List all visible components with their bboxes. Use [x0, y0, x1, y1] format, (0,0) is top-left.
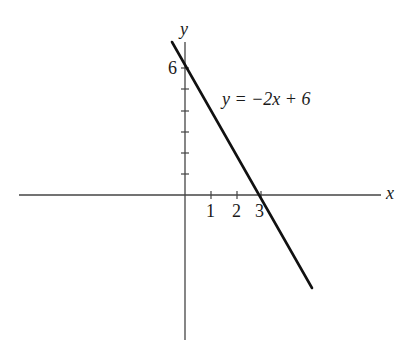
y-axis-label: y [180, 20, 188, 38]
y-intercept-label: 6 [168, 59, 177, 77]
x-tick-label-1: 1 [206, 202, 215, 220]
coordinate-plane [0, 0, 419, 362]
line-y-equals-neg2x-plus-6 [172, 42, 312, 288]
x-tick-label-2: 2 [232, 202, 241, 220]
equation-label: y = −2x + 6 [222, 90, 310, 108]
x-tick-label-3: 3 [255, 202, 264, 220]
x-axis-label: x [386, 184, 394, 202]
